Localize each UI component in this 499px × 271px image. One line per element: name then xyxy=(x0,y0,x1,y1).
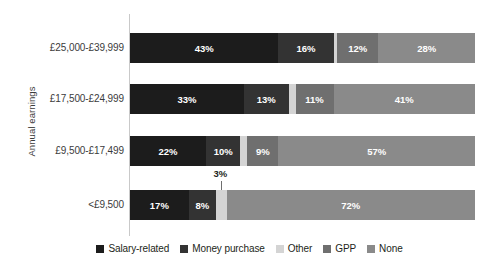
bar-segment: 33% xyxy=(130,84,244,114)
bar-segment xyxy=(216,190,226,220)
y-axis-tick-label: £9,500-£17,499 xyxy=(20,145,124,156)
bar-row: 22%10%9%57% xyxy=(130,136,475,166)
annotation-label: 3% xyxy=(213,168,227,179)
legend-swatch-icon xyxy=(180,245,188,253)
annotation-leader-line xyxy=(221,181,222,190)
bar-segment: 10% xyxy=(206,136,241,166)
bar-row: 17%8%72% xyxy=(130,190,475,220)
bar-segment: 17% xyxy=(130,190,189,220)
bar-segment: 11% xyxy=(296,84,334,114)
legend-item-label: Money purchase xyxy=(192,243,265,254)
bar-segment: 41% xyxy=(334,84,475,114)
stacked-bar-chart: Annual earnings £25,000-£39,999£17,500-£… xyxy=(0,0,499,271)
legend-item[interactable]: Other xyxy=(276,243,313,254)
legend-swatch-icon xyxy=(323,245,331,253)
legend-item[interactable]: Money purchase xyxy=(180,243,265,254)
bar-segment: 43% xyxy=(130,33,278,63)
bar-segment: 72% xyxy=(227,190,475,220)
y-axis-tick-label: £25,000-£39,999 xyxy=(20,42,124,53)
y-axis-tick-labels: £25,000-£39,999£17,500-£24,999£9,500-£17… xyxy=(20,18,124,233)
bar-segment: 8% xyxy=(189,190,217,220)
legend-item[interactable]: None xyxy=(367,243,403,254)
legend-item-label: Salary-related xyxy=(108,243,169,254)
legend-item[interactable]: GPP xyxy=(323,243,356,254)
y-axis-tick-label: <£9,500 xyxy=(20,199,124,210)
legend-swatch-icon xyxy=(96,245,104,253)
plot-area: 43%16%12%28%33%13%11%41%22%10%9%57%17%8%… xyxy=(129,14,475,236)
bar-row: 43%16%12%28% xyxy=(130,33,475,63)
chart-legend: Salary-relatedMoney purchaseOtherGPPNone xyxy=(0,243,499,254)
bar-segment: 22% xyxy=(130,136,206,166)
legend-swatch-icon xyxy=(276,245,284,253)
legend-item-label: None xyxy=(379,243,403,254)
bar-segment xyxy=(240,136,247,166)
bar-segment: 13% xyxy=(244,84,289,114)
legend-swatch-icon xyxy=(367,245,375,253)
legend-item[interactable]: Salary-related xyxy=(96,243,169,254)
bar-row: 33%13%11%41% xyxy=(130,84,475,114)
y-axis-tick-label: £17,500-£24,999 xyxy=(20,93,124,104)
bar-segment: 12% xyxy=(337,33,378,63)
bar-segment: 16% xyxy=(278,33,333,63)
legend-item-label: Other xyxy=(288,243,313,254)
legend-item-label: GPP xyxy=(335,243,356,254)
bar-segment: 57% xyxy=(278,136,475,166)
bar-segment: 28% xyxy=(378,33,475,63)
bar-segment: 9% xyxy=(247,136,278,166)
bar-segment xyxy=(289,84,296,114)
